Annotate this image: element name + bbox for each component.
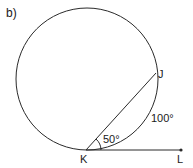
- geometry-diagram: b) 50° 100° J K L: [0, 0, 193, 168]
- circle: [16, 8, 158, 150]
- point-j-label: J: [158, 68, 164, 80]
- point-l-label: L: [177, 153, 183, 165]
- point-k-label: K: [80, 153, 88, 165]
- arc-measure-label: 100°: [151, 112, 174, 124]
- point-l-dot: [179, 148, 182, 151]
- angle-label: 50°: [103, 133, 120, 145]
- chord-kj: [86, 73, 156, 150]
- figure-label: b): [6, 6, 17, 20]
